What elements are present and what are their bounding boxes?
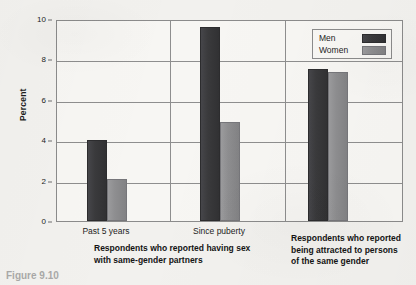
y-tick-label-8: 8 — [42, 56, 46, 64]
y-tick-mark-8 — [48, 60, 52, 61]
y-tick-label-4: 4 — [42, 137, 46, 145]
panel-divider-1 — [170, 21, 171, 221]
y-tick-label-0: 0 — [42, 218, 46, 226]
legend-swatch-men-icon — [362, 34, 386, 43]
y-tick-label-10: 10 — [37, 16, 46, 24]
y-tick-mark-2 — [48, 181, 52, 182]
gridline-8 — [57, 61, 402, 62]
chart-legend: Men Women — [312, 29, 392, 59]
y-tick-mark-10 — [48, 20, 52, 21]
legend-swatch-women-icon — [362, 46, 386, 55]
y-axis-tick-group: 0 2 4 6 8 10 — [0, 20, 52, 222]
caption-panel-right-line-2: being attracted to persons — [291, 245, 416, 257]
gridline-6 — [57, 102, 402, 103]
caption-panel-left-line-1: Respondents who reported having sex — [94, 243, 274, 255]
y-tick-mark-0 — [48, 222, 52, 223]
x-tick-label-since-puberty: Since puberty — [193, 226, 245, 236]
caption-panel-right: Respondents who reported being attracted… — [291, 233, 416, 268]
legend-item-men[interactable]: Men — [319, 33, 386, 43]
x-tick-label-past-5-years: Past 5 years — [82, 226, 129, 236]
bar-women-attraction[interactable] — [328, 72, 348, 222]
figure-label: Figure 9.10 — [6, 270, 59, 281]
caption-panel-left: Respondents who reported having sex with… — [94, 243, 274, 266]
bar-men-past-5-years[interactable] — [87, 140, 107, 221]
bar-men-since-puberty[interactable] — [200, 27, 220, 221]
legend-label-women: Women — [319, 45, 356, 55]
y-tick-mark-4 — [48, 141, 52, 142]
caption-panel-right-line-3: of the same gender — [291, 256, 416, 268]
y-tick-label-6: 6 — [42, 97, 46, 105]
y-tick-mark-6 — [48, 100, 52, 101]
bar-men-attraction[interactable] — [308, 69, 328, 222]
legend-label-men: Men — [319, 33, 356, 43]
panel-divider-2 — [285, 21, 286, 221]
caption-panel-left-line-2: with same-gender partners — [94, 255, 274, 267]
bar-women-past-5-years[interactable] — [107, 179, 127, 221]
legend-item-women[interactable]: Women — [319, 45, 386, 55]
caption-panel-right-line-1: Respondents who reported — [291, 233, 416, 245]
chart-plot-area: Men Women — [56, 20, 403, 222]
y-tick-label-2: 2 — [42, 178, 46, 186]
bar-women-since-puberty[interactable] — [220, 122, 240, 221]
